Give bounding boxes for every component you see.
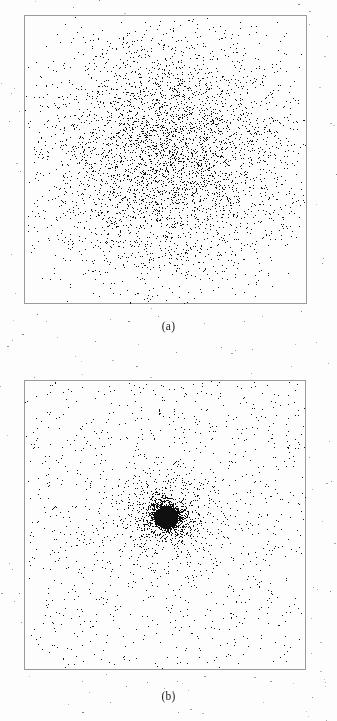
scatter-points-a: [24, 15, 307, 304]
panel-label-a: (a): [0, 320, 337, 332]
panel-label-b: (b): [0, 690, 337, 702]
scatter-panel-a: [24, 15, 307, 304]
scatter-points-b: [24, 380, 306, 670]
figure-container: (a) (b): [0, 0, 337, 721]
scatter-panel-b: [24, 380, 306, 670]
